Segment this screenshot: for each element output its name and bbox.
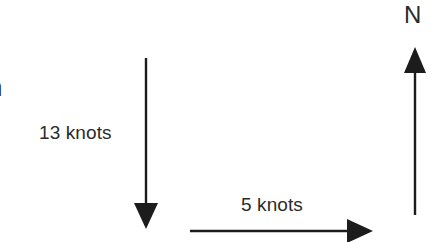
vertical-velocity-vector [134, 58, 158, 229]
horizontal-velocity-arrowhead [347, 219, 373, 242]
clipped-text-lower: l [0, 148, 2, 174]
vector-diagram-svg [0, 0, 439, 242]
horizontal-speed-label: 5 knots [241, 195, 303, 215]
vertical-velocity-arrowhead [134, 203, 158, 229]
diagram-canvas: 13 knots 5 knots N n l [0, 0, 439, 242]
north-reference-arrow [404, 47, 426, 215]
clipped-text-upper: n [0, 74, 2, 100]
vertical-speed-label: 13 knots [39, 123, 112, 143]
horizontal-velocity-vector [190, 219, 373, 242]
north-label: N [404, 2, 421, 28]
north-arrow-arrowhead [404, 47, 426, 73]
